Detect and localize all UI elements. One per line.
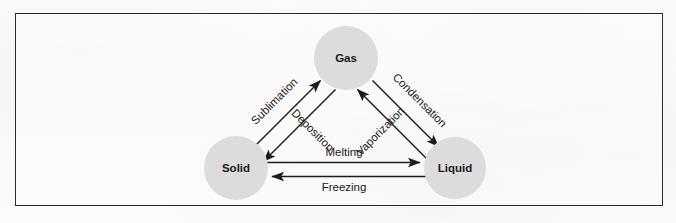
edge-freezing: Freezing	[272, 177, 429, 194]
node-label-solid: Solid	[222, 162, 250, 174]
edge-label-melting: Melting	[325, 146, 362, 158]
edge-label-condensation: Condensation	[390, 71, 449, 130]
node-gas[interactable]: Gas	[314, 26, 378, 90]
phase-change-diagram: Sublimation Deposition Condensation Vapo…	[0, 0, 676, 223]
edge-label-sublimation: Sublimation	[249, 76, 300, 127]
edge-melting: Melting	[263, 146, 420, 163]
node-solid[interactable]: Solid	[204, 136, 268, 200]
node-label-liquid: Liquid	[438, 162, 473, 174]
diagram-page: Sublimation Deposition Condensation Vapo…	[0, 0, 676, 223]
node-label-gas: Gas	[335, 52, 357, 64]
node-liquid[interactable]: Liquid	[424, 137, 486, 199]
edge-label-freezing: Freezing	[322, 181, 367, 193]
edge-sublimation: Sublimation	[249, 76, 321, 147]
